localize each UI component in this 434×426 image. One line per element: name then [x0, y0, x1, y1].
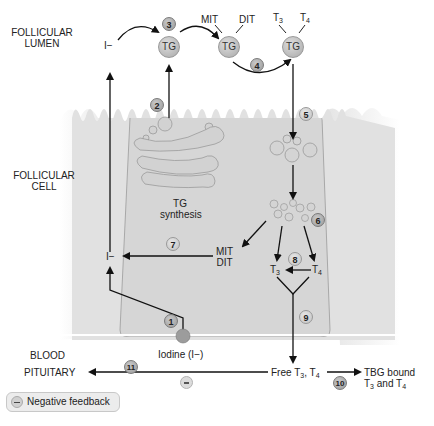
label-line: LUMEN [6, 38, 78, 49]
label-follicular-lumen: FOLLICULAR LUMEN [6, 27, 78, 49]
subscript: 4 [306, 17, 310, 24]
tg-synthesis-label: TG synthesis [160, 198, 200, 220]
legend-label: Negative feedback [27, 396, 110, 407]
iodide-to-tg-arrow [118, 27, 158, 40]
step-9-badge: 9 [299, 310, 313, 324]
follicular-cell-body [60, 109, 400, 340]
step-1-badge: 1 [164, 314, 178, 328]
t4-cell-label: T4 [312, 264, 322, 278]
iodination-arrow [180, 26, 218, 38]
text: Free T [271, 367, 300, 378]
label-line: CELL [10, 181, 78, 192]
iodide-lumen-label: I− [104, 40, 113, 51]
step-3-badge: 3 [162, 17, 176, 31]
mit-label-lumen: MIT [201, 14, 218, 25]
label-line: MIT [216, 246, 233, 257]
diagram-canvas [0, 0, 434, 426]
tg-iodinated: TG [218, 36, 240, 58]
legend-negative-feedback: Negative feedback [6, 392, 120, 412]
label-line: TBG bound [364, 367, 415, 378]
step-5-badge: 5 [299, 107, 313, 121]
label-pituitary: PITUITARY [24, 367, 75, 378]
t4-label-lumen: T4 [300, 12, 310, 26]
free-t3-t4-label: Free T3, T4 [271, 367, 320, 381]
subscript: 4 [316, 372, 320, 379]
tg-unmodified: TG [158, 36, 180, 58]
label-line: synthesis [160, 209, 200, 220]
step-2-badge: 2 [150, 98, 164, 112]
iodine-label: Iodine (I−) [158, 349, 203, 360]
subscript: 3 [276, 269, 280, 276]
tbg-bound-label: TBG bound T3 and T4 [364, 367, 415, 392]
minus-icon [11, 396, 23, 408]
label-line: FOLLICULAR [10, 170, 78, 181]
text: and T [374, 378, 402, 389]
step-6-badge: 6 [311, 213, 325, 227]
subscript: 4 [318, 269, 322, 276]
label-line: T3 and T4 [364, 378, 415, 392]
step-4-badge: 4 [250, 58, 264, 72]
step-10-badge: 10 [333, 376, 347, 390]
iodide-cell-label: I− [106, 251, 115, 262]
label-follicular-cell: FOLLICULAR CELL [10, 170, 78, 192]
label-line: TG [160, 198, 200, 209]
mit-dit-cell-label: MIT DIT [216, 246, 233, 268]
step-8-badge: 8 [288, 252, 302, 266]
step-7-badge: 7 [166, 237, 180, 251]
tg-residue-links [215, 25, 305, 33]
label-blood: BLOOD [30, 350, 65, 361]
label-line: DIT [216, 257, 233, 268]
step-11-badge: 11 [124, 360, 138, 374]
negative-feedback-icon [180, 376, 193, 389]
t3-cell-label: T3 [270, 264, 280, 278]
t3-label-lumen: T3 [273, 12, 283, 26]
subscript: 4 [402, 383, 406, 390]
dit-label-lumen: DIT [239, 14, 255, 25]
tg-coupled: TG [282, 36, 304, 58]
iodine-transporter [176, 329, 190, 343]
text: , T [304, 367, 315, 378]
label-line: FOLLICULAR [6, 27, 78, 38]
subscript: 3 [279, 17, 283, 24]
